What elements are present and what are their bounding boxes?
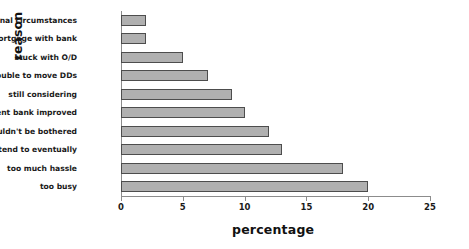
bar-row: present bank improved (121, 104, 430, 123)
x-tick-label: 15 (300, 202, 312, 212)
x-tick-mark (121, 197, 122, 201)
bar (121, 15, 146, 26)
bar-row: too busy (121, 178, 430, 197)
bar (121, 89, 232, 100)
bar-row: couldn't be bothered (121, 122, 430, 141)
x-axis-line (121, 196, 431, 197)
category-label: still considering (8, 89, 77, 100)
x-tick-label: 0 (118, 202, 124, 212)
plot-area: personal circumstanceshave a mortgage wi… (121, 11, 430, 196)
category-label: couldn't be bothered (0, 126, 77, 137)
bar-row: too much hassle (121, 159, 430, 178)
category-label: present bank improved (0, 107, 77, 118)
x-tick-label: 25 (424, 202, 436, 212)
x-tick-label: 5 (180, 202, 186, 212)
category-label: personal circumstances (0, 15, 77, 26)
bar-row: stuck with O/D (121, 48, 430, 67)
x-tick-mark (430, 197, 431, 201)
category-label: I do intend to eventually (0, 144, 77, 155)
bar-row: too much trouble to move DDs (121, 67, 430, 86)
bar-chart: reason personal circumstanceshave a mort… (0, 0, 469, 249)
category-label: have a mortgage with bank (0, 33, 77, 44)
bar (121, 163, 343, 174)
x-axis-title: percentage (232, 222, 314, 237)
category-label: too much hassle (7, 163, 77, 174)
category-label: too much trouble to move DDs (0, 70, 77, 81)
category-label: stuck with O/D (14, 52, 77, 63)
bar (121, 107, 245, 118)
x-tick-mark (183, 197, 184, 201)
bar (121, 70, 208, 81)
category-label: too busy (40, 181, 77, 192)
x-tick-label: 10 (239, 202, 251, 212)
bar-row: still considering (121, 85, 430, 104)
x-tick-label: 20 (362, 202, 374, 212)
x-tick-mark (245, 197, 246, 201)
bar-row: personal circumstances (121, 11, 430, 30)
bar-row: have a mortgage with bank (121, 30, 430, 49)
x-tick-mark (306, 197, 307, 201)
bar (121, 52, 183, 63)
bar (121, 33, 146, 44)
x-tick-mark (368, 197, 369, 201)
bar-row: I do intend to eventually (121, 141, 430, 160)
bar (121, 181, 368, 192)
bar (121, 144, 282, 155)
bar (121, 126, 269, 137)
